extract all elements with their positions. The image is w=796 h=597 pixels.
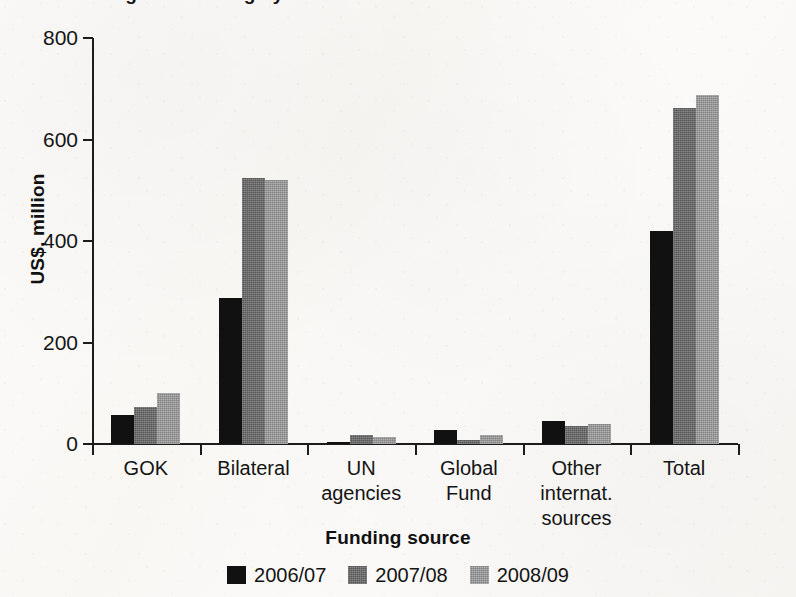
bar[interactable] — [542, 421, 565, 444]
bar[interactable] — [134, 407, 157, 444]
bar-group-bars — [111, 38, 180, 444]
bar[interactable] — [327, 442, 350, 444]
y-tick-label-wrap: 600 — [8, 140, 78, 141]
y-tick-label: 0 — [16, 433, 78, 454]
category-label-line: UN — [307, 456, 415, 481]
category-label: GlobalFund — [415, 456, 523, 506]
bar-group-bars — [434, 38, 503, 444]
y-tick-mark — [83, 139, 93, 141]
category-label: Total — [630, 456, 738, 481]
chart-legend: 2006/072007/082008/09 — [0, 565, 796, 585]
bar-group — [650, 38, 719, 444]
x-axis-label: Funding source — [0, 527, 796, 549]
category-label-line: Total — [630, 456, 738, 481]
y-tick-label-wrap: 200 — [8, 343, 78, 344]
bar[interactable] — [480, 435, 503, 444]
bar[interactable] — [434, 430, 457, 444]
x-tick-mark — [630, 444, 632, 455]
legend-swatch-2006-07 — [227, 566, 246, 584]
category-label-line: internat. — [523, 481, 631, 506]
y-tick-label-wrap: 0 — [8, 444, 78, 445]
category-label-line: GOK — [92, 456, 200, 481]
bar-group-bars — [542, 38, 611, 444]
bar[interactable] — [157, 393, 180, 444]
bar[interactable] — [673, 108, 696, 444]
bar-group-bars — [219, 38, 288, 444]
legend-item[interactable]: 2006/07 — [227, 565, 326, 585]
category-label: GOK — [92, 456, 200, 481]
legend-item[interactable]: 2008/09 — [470, 565, 569, 585]
legend-swatch-2008-09 — [470, 566, 489, 584]
x-tick-mark — [92, 444, 94, 455]
x-tick-mark — [200, 444, 202, 455]
y-tick-mark — [83, 240, 93, 242]
bar-group — [111, 38, 180, 444]
y-tick-label: 200 — [16, 332, 78, 353]
category-label-line: Global — [415, 456, 523, 481]
category-label-line: sources — [523, 506, 631, 531]
category-label: Otherinternat.sources — [523, 456, 631, 531]
category-label-line: Bilateral — [200, 456, 308, 481]
bar-group — [542, 38, 611, 444]
bar-group — [327, 38, 396, 444]
legend-label: 2008/09 — [497, 565, 569, 585]
bar[interactable] — [588, 424, 611, 444]
bar[interactable] — [111, 415, 134, 444]
category-label: Bilateral — [200, 456, 308, 481]
category-label-line: agencies — [307, 481, 415, 506]
legend-label: 2007/08 — [375, 565, 447, 585]
bar[interactable] — [565, 426, 588, 444]
legend-label: 2006/07 — [254, 565, 326, 585]
bar[interactable] — [373, 437, 396, 444]
x-tick-mark — [738, 444, 740, 455]
bar[interactable] — [265, 180, 288, 444]
bar[interactable] — [457, 440, 480, 444]
bar[interactable] — [219, 298, 242, 444]
legend-item[interactable]: 2007/08 — [348, 565, 447, 585]
y-tick-label: 800 — [16, 27, 78, 48]
y-tick-label-wrap: 400 — [8, 241, 78, 242]
y-tick-mark — [83, 342, 93, 344]
bar-group — [219, 38, 288, 444]
y-tick-label-wrap: 800 — [8, 38, 78, 39]
bar[interactable] — [650, 231, 673, 444]
bar-chart: US$, million Funding source 020040060080… — [0, 0, 796, 597]
x-tick-mark — [523, 444, 525, 455]
bar-group-bars — [650, 38, 719, 444]
legend-swatch-2007-08 — [348, 566, 367, 584]
x-tick-mark — [307, 444, 309, 455]
category-label: UNagencies — [307, 456, 415, 506]
y-tick-label: 600 — [16, 129, 78, 150]
category-label-line: Other — [523, 456, 631, 481]
bar[interactable] — [696, 95, 719, 444]
bar[interactable] — [350, 435, 373, 444]
bar-group-bars — [327, 38, 396, 444]
category-label-line: Fund — [415, 481, 523, 506]
bar[interactable] — [242, 178, 265, 444]
y-tick-mark — [83, 37, 93, 39]
x-tick-mark — [415, 444, 417, 455]
bar-group — [434, 38, 503, 444]
y-tick-label: 400 — [16, 230, 78, 251]
